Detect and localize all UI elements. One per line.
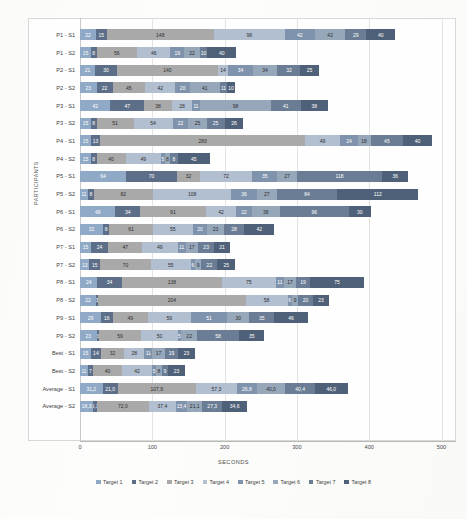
bar-segment: 27 bbox=[277, 171, 297, 182]
legend-item[interactable]: Target 8 bbox=[344, 479, 370, 485]
stacked-bar: 13157055692225 bbox=[80, 259, 448, 270]
bar-segment: 27,3 bbox=[202, 401, 222, 412]
bar-segment: 51 bbox=[191, 312, 228, 323]
bar-segment: 140 bbox=[117, 65, 218, 76]
chart-row: P2 - S121301401434343225 bbox=[36, 61, 448, 79]
bar-segment: 34,6 bbox=[222, 401, 247, 412]
bar-segment: 22 bbox=[97, 82, 113, 93]
bar-segment: 13 bbox=[80, 259, 89, 270]
bar-segment: 8 bbox=[170, 153, 177, 164]
bar-segment: 32 bbox=[177, 171, 200, 182]
chart-row: P2 - S22322454220411110 bbox=[36, 79, 448, 97]
legend-swatch-icon bbox=[273, 480, 278, 485]
legend-item[interactable]: Target 5 bbox=[238, 479, 264, 485]
bar-segment: 91 bbox=[140, 206, 206, 217]
bar-segment: 51 bbox=[97, 118, 134, 129]
bar-segment: 23 bbox=[313, 295, 330, 306]
bar-segment: 32 bbox=[80, 224, 103, 235]
bar-segment: 40 bbox=[97, 153, 126, 164]
stacked-bar: 328615520232842 bbox=[80, 224, 448, 235]
bar-segment: 26,8 bbox=[237, 383, 256, 394]
bar-segment: 22 bbox=[236, 206, 252, 217]
y-tick-label: Best - S1 bbox=[36, 350, 80, 356]
bar-segment: 23 bbox=[178, 348, 195, 359]
chart-row: Best - S11514322811171923 bbox=[36, 344, 448, 362]
y-tick-label: P7 - S2 bbox=[36, 262, 80, 268]
y-tick-label: P4 - S2 bbox=[36, 156, 80, 162]
y-tick-label: P8 - S2 bbox=[36, 297, 80, 303]
stacked-bar: 15132834924184540 bbox=[80, 135, 448, 146]
bar-segment: 17 bbox=[284, 277, 296, 288]
bar-segment: 23 bbox=[80, 82, 97, 93]
y-tick-label: P9 - S2 bbox=[36, 333, 80, 339]
bar-segment: 11 bbox=[144, 348, 152, 359]
bar-segment: 25 bbox=[217, 259, 235, 270]
bar-segment: 50 bbox=[141, 330, 177, 341]
bar-segment: 75 bbox=[310, 277, 364, 288]
chart-legend: Target 1Target 2Target 3Target 4Target 5… bbox=[0, 479, 467, 485]
bar-segment: 15 bbox=[80, 47, 91, 58]
bar-rows: P1 - S122151489842422940P1 - S2158564619… bbox=[36, 26, 448, 435]
bar-segment: 82 bbox=[94, 189, 153, 200]
bar-segment: 41 bbox=[190, 82, 220, 93]
stacked-bar-chart: PARTICIPANTS P1 - S122151489842422940P1 … bbox=[0, 0, 467, 519]
bar-segment: 70 bbox=[126, 171, 177, 182]
bar-segment: 27 bbox=[257, 189, 277, 200]
legend-label: Target 3 bbox=[174, 479, 193, 485]
stacked-bar: 18,35,172,037,415,421,127,334,6 bbox=[80, 401, 448, 412]
bar-segment: 49 bbox=[113, 312, 148, 323]
bar-segment: 15 bbox=[80, 153, 91, 164]
stacked-bar: 23359505225835 bbox=[80, 330, 448, 341]
bar-segment: 59 bbox=[148, 312, 191, 323]
x-tick-label: 300 bbox=[292, 444, 301, 450]
legend-item[interactable]: Target 7 bbox=[309, 479, 335, 485]
bar-segment: 11 bbox=[80, 365, 88, 376]
bar-segment: 42 bbox=[285, 29, 315, 40]
bar-segment: 11 bbox=[220, 82, 228, 93]
legend-swatch-icon bbox=[203, 480, 208, 485]
bar-segment: 24 bbox=[80, 277, 97, 288]
chart-row: P1 - S2158564619221040 bbox=[36, 44, 448, 62]
y-tick-label: P1 - S1 bbox=[36, 32, 80, 38]
bar-segment: 26 bbox=[225, 118, 244, 129]
bar-segment: 36 bbox=[382, 171, 408, 182]
y-tick-label: P6 - S2 bbox=[36, 226, 80, 232]
legend-item[interactable]: Target 3 bbox=[167, 479, 193, 485]
legend-swatch-icon bbox=[96, 480, 101, 485]
stacked-bar: 2916495951303546 bbox=[80, 312, 448, 323]
x-axis-line bbox=[80, 441, 456, 442]
x-tick-label: 500 bbox=[437, 444, 446, 450]
bar-segment: 38 bbox=[301, 100, 328, 111]
legend-item[interactable]: Target 4 bbox=[203, 479, 229, 485]
bar-segment: 84 bbox=[277, 189, 338, 200]
bar-segment: 61 bbox=[109, 224, 153, 235]
stacked-bar: 22320458692023 bbox=[80, 295, 448, 306]
x-tick-label: 200 bbox=[220, 444, 229, 450]
bar-segment: 75 bbox=[222, 277, 276, 288]
bar-segment: 40 bbox=[93, 365, 122, 376]
bar-segment: 14 bbox=[218, 65, 228, 76]
bar-segment: 20 bbox=[298, 295, 312, 306]
y-tick-label: P4 - S1 bbox=[36, 138, 80, 144]
legend-item[interactable]: Target 6 bbox=[273, 479, 299, 485]
legend-label: Target 4 bbox=[210, 479, 229, 485]
bar-segment: 148 bbox=[107, 29, 214, 40]
legend-item[interactable]: Target 1 bbox=[96, 479, 122, 485]
legend-swatch-icon bbox=[344, 480, 349, 485]
chart-row: P8 - S222320458692023 bbox=[36, 291, 448, 309]
bar-segment: 45 bbox=[113, 82, 146, 93]
bar-segment: 98 bbox=[200, 100, 271, 111]
bar-segment: 13 bbox=[91, 135, 100, 146]
y-tick-label: Average - S2 bbox=[36, 403, 80, 409]
legend-item[interactable]: Target 2 bbox=[132, 479, 158, 485]
bar-segment: 32 bbox=[277, 65, 300, 76]
bar-segment: 15 bbox=[80, 135, 91, 146]
stacked-bar: 1514322811171923 bbox=[80, 348, 448, 359]
bar-segment: 19 bbox=[296, 277, 310, 288]
bar-segment: 34 bbox=[253, 65, 278, 76]
bar-segment: 96 bbox=[280, 206, 349, 217]
bar-segment: 64 bbox=[80, 171, 126, 182]
chart-row: P3 - S14247382811984138 bbox=[36, 97, 448, 115]
bar-segment: 45 bbox=[178, 153, 211, 164]
bar-segment: 31,2 bbox=[80, 383, 103, 394]
